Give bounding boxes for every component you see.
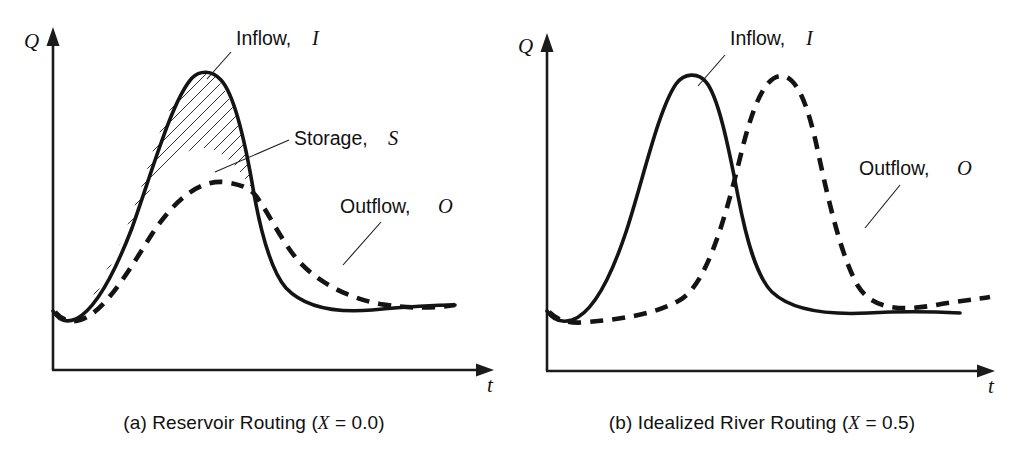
leader-storage-a xyxy=(215,140,289,172)
axis-label-t-a: t xyxy=(487,373,494,397)
axis-label-q-a: Q xyxy=(24,29,39,53)
caption-b-prefix: (b) Idealized River Routing ( xyxy=(609,412,848,433)
annot-storage-symbol-a: S xyxy=(388,127,398,149)
figure-hydrograph-routing: Inflow, I Storage, S Outflow, O Q t (a) … xyxy=(0,0,1016,470)
caption-a-var: X xyxy=(318,412,330,433)
annot-inflow-symbol-b: I xyxy=(805,27,814,49)
panel-reservoir-routing: Inflow, I Storage, S Outflow, O Q t (a) … xyxy=(0,0,508,470)
axis-x-b xyxy=(546,365,995,378)
chart-a-svg: Inflow, I Storage, S Outflow, O Q t xyxy=(0,0,508,410)
axis-y-b xyxy=(541,33,554,371)
caption-panel-a: (a) Reservoir Routing (X = 0.0) xyxy=(0,412,508,434)
caption-panel-b: (b) Idealized River Routing (X = 0.5) xyxy=(508,412,1016,434)
caption-a-prefix: (a) Reservoir Routing ( xyxy=(123,412,317,433)
caption-a-suffix: = 0.0) xyxy=(330,412,385,433)
annot-outflow-a: Outflow, xyxy=(340,195,410,217)
curve-outflow-b xyxy=(549,76,990,323)
annot-inflow-a: Inflow, xyxy=(236,27,291,49)
axis-x-a xyxy=(52,364,494,377)
leader-inflow-b xyxy=(698,55,725,86)
annot-inflow-b: Inflow, xyxy=(730,27,785,49)
annot-outflow-b: Outflow, xyxy=(859,157,929,179)
annot-inflow-symbol-a: I xyxy=(311,27,320,49)
panel-idealized-river-routing: Inflow, I Outflow, O Q t (b) Idealized R… xyxy=(508,0,1016,470)
leader-outflow-a xyxy=(343,222,381,265)
annot-outflow-symbol-a: O xyxy=(438,195,453,217)
annot-storage-a: Storage, xyxy=(294,127,368,149)
annot-outflow-symbol-b: O xyxy=(957,157,972,179)
axis-label-q-b: Q xyxy=(518,34,533,58)
leader-inflow-a xyxy=(207,52,231,79)
caption-b-suffix: = 0.5) xyxy=(860,412,915,433)
axis-label-t-b: t xyxy=(988,374,995,398)
caption-b-var: X xyxy=(848,412,860,433)
chart-b-svg: Inflow, I Outflow, O Q t xyxy=(508,0,1016,410)
leader-outflow-b xyxy=(865,185,900,228)
